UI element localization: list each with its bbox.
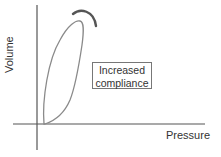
annotation-line-2: compliance xyxy=(93,77,151,90)
y-axis-label: Volume xyxy=(3,36,15,73)
annotation-line-1: Increased xyxy=(93,64,151,77)
annotation-box: Increased compliance xyxy=(92,62,152,89)
pressure-volume-loop xyxy=(44,21,84,124)
shift-arc-icon xyxy=(73,11,96,26)
x-axis-label: Pressure xyxy=(166,129,210,141)
